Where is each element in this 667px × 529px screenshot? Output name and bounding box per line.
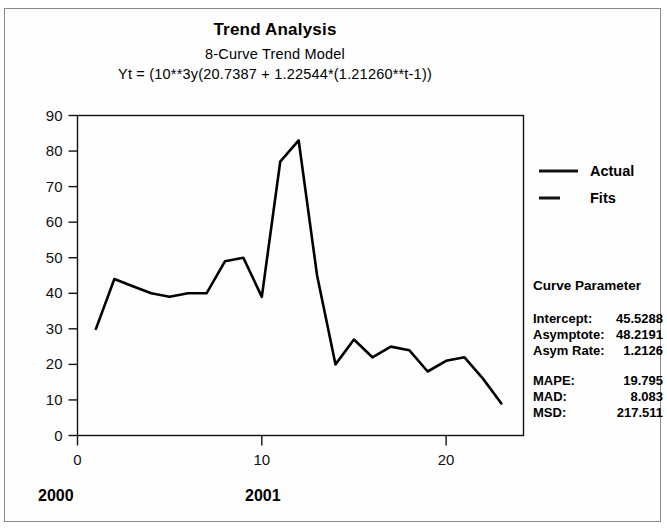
param-key: Asymptote:	[533, 327, 605, 342]
param-row-intercept: Intercept: 45.5288	[533, 311, 663, 326]
y-tick-label: 0	[54, 427, 62, 444]
period-label-2000: 2000	[38, 487, 74, 505]
x-tick-label: 20	[438, 451, 455, 468]
y-tick-label: 10	[46, 391, 63, 408]
param-key: Intercept:	[533, 311, 592, 326]
y-tick-label: 50	[46, 249, 63, 266]
param-value: 48.2191	[616, 327, 663, 342]
param-value: 1.2126	[623, 343, 663, 358]
x-tick-label: 10	[253, 451, 270, 468]
actual-series-line	[96, 140, 501, 403]
y-tick-label: 70	[46, 178, 63, 195]
accuracy-row-mad: MAD: 8.083	[533, 389, 663, 404]
y-tick-label: 30	[46, 320, 63, 337]
param-key: Asym Rate:	[533, 343, 605, 358]
legend-marks	[539, 171, 578, 198]
accuracy-value: 19.795	[623, 373, 663, 388]
curve-parameter-heading: Curve Parameter	[533, 278, 641, 293]
y-tick-label: 90	[46, 107, 63, 124]
legend-label-fits: Fits	[590, 190, 616, 206]
y-tick-label: 40	[46, 284, 63, 301]
accuracy-row-mape: MAPE: 19.795	[533, 373, 663, 388]
x-tick-label: 0	[73, 451, 81, 468]
accuracy-value: 8.083	[630, 389, 663, 404]
accuracy-key: MSD:	[533, 405, 566, 420]
legend-label-actual: Actual	[590, 163, 634, 179]
param-value: 45.5288	[616, 311, 663, 326]
accuracy-row-msd: MSD: 217.511	[533, 405, 663, 420]
accuracy-key: MAPE:	[533, 373, 575, 388]
param-row-asym-rate: Asym Rate: 1.2126	[533, 343, 663, 358]
plot-frame	[78, 116, 524, 436]
y-tick-label: 20	[46, 355, 63, 372]
y-axis-ticks: 0102030405060708090	[46, 107, 78, 444]
axes-group: 0102030405060708090 01020	[46, 107, 524, 468]
plot-area: 0102030405060708090 01020	[0, 0, 667, 529]
accuracy-value: 217.511	[617, 405, 663, 420]
accuracy-key: MAD:	[533, 389, 567, 404]
x-axis-ticks: 01020	[73, 436, 454, 468]
chart-svg: 0102030405060708090 01020	[0, 0, 667, 529]
param-row-asymptote: Asymptote: 48.2191	[533, 327, 663, 342]
y-tick-label: 60	[46, 213, 63, 230]
period-label-2001: 2001	[245, 487, 281, 505]
y-tick-label: 80	[46, 142, 63, 159]
